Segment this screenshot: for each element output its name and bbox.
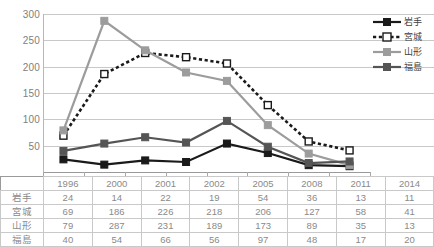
data-point-marker	[346, 158, 353, 165]
table-cell: 79	[44, 219, 93, 233]
table-column-header: 1996	[44, 177, 93, 191]
legend-label: 福島	[404, 60, 422, 74]
legend-label: 宮城	[404, 30, 422, 44]
series-lines	[43, 14, 370, 172]
data-point-marker	[223, 140, 230, 147]
table-row-label: 山形	[1, 219, 44, 233]
legend-swatch-icon	[372, 45, 402, 59]
data-point-marker	[183, 69, 190, 76]
data-point-marker	[223, 77, 230, 84]
table-row: 宮城691862262182061275841	[1, 205, 434, 219]
data-point-marker	[142, 157, 149, 164]
legend-swatch-icon	[372, 30, 402, 44]
table-column-header: 2005	[239, 177, 288, 191]
table-cell: 189	[190, 219, 239, 233]
table-cell: 54	[239, 191, 288, 205]
data-point-marker	[264, 143, 271, 150]
table-cell: 231	[141, 219, 190, 233]
table-cell: 24	[44, 191, 93, 205]
table-cell: 36	[287, 191, 336, 205]
table-cell: 173	[239, 219, 288, 233]
table-cell: 58	[336, 205, 385, 219]
legend-item-宮城[interactable]: 宮城	[372, 30, 432, 44]
y-axis-labels: 30025020015010050	[0, 0, 40, 176]
table-header-row: 19962000200120022005200820112014	[1, 177, 434, 191]
data-point-marker	[142, 47, 149, 54]
data-point-marker	[183, 139, 190, 146]
table-cell: 11	[385, 191, 434, 205]
data-point-marker	[305, 160, 312, 167]
legend-swatch-icon	[372, 60, 402, 74]
table-column-header: 2011	[336, 177, 385, 191]
chart-legend: 岩手宮城山形福島	[372, 15, 432, 73]
table-cell: 48	[287, 233, 336, 247]
table-cell: 35	[336, 219, 385, 233]
table-cell: 89	[287, 219, 336, 233]
legend-label: 山形	[404, 45, 422, 59]
y-axis-tick-label: 50	[0, 140, 40, 151]
data-point-marker	[223, 60, 230, 67]
legend-swatch-icon	[372, 15, 402, 29]
data-point-marker	[183, 54, 190, 61]
data-table: 19962000200120022005200820112014岩手241422…	[0, 176, 434, 247]
data-point-marker	[142, 134, 149, 141]
data-point-marker	[101, 71, 108, 78]
data-point-marker	[223, 117, 230, 124]
table-cell: 54	[92, 233, 141, 247]
table-cell: 69	[44, 205, 93, 219]
table-cell: 206	[239, 205, 288, 219]
table-cell: 41	[385, 205, 434, 219]
table-cell: 66	[141, 233, 190, 247]
data-point-marker	[183, 158, 190, 165]
table-column-header: 2000	[92, 177, 141, 191]
table-cell: 14	[92, 191, 141, 205]
table-cell: 287	[92, 219, 141, 233]
data-table-wrapper: 19962000200120022005200820112014岩手241422…	[0, 176, 434, 245]
table-column-header: 2001	[141, 177, 190, 191]
table-cell: 226	[141, 205, 190, 219]
data-point-marker	[60, 156, 67, 163]
table-cell: 17	[336, 233, 385, 247]
data-point-marker	[101, 17, 108, 24]
table-column-header: 2008	[287, 177, 336, 191]
data-point-marker	[101, 140, 108, 147]
y-axis-tick-label: 100	[0, 114, 40, 125]
y-axis-tick-label: 250	[0, 35, 40, 46]
data-point-marker	[305, 150, 312, 157]
table-cell: 19	[190, 191, 239, 205]
y-axis-tick-label: 150	[0, 88, 40, 99]
table-row: 山形79287231189173893513	[1, 219, 434, 233]
data-point-marker	[305, 138, 312, 145]
legend-label: 岩手	[404, 15, 422, 29]
table-cell: 13	[385, 219, 434, 233]
table-row-label: 福島	[1, 233, 44, 247]
table-cell: 13	[336, 191, 385, 205]
table-row: 岩手2414221954361311	[1, 191, 434, 205]
table-row-label: 宮城	[1, 205, 44, 219]
data-point-marker	[60, 147, 67, 154]
data-point-marker	[101, 161, 108, 168]
table-corner-cell	[1, 177, 44, 191]
legend-item-福島[interactable]: 福島	[372, 60, 432, 74]
data-point-marker	[264, 122, 271, 129]
data-point-marker	[60, 127, 67, 134]
table-cell: 40	[44, 233, 93, 247]
table-row-label: 岩手	[1, 191, 44, 205]
table-row: 福島4054665697481720	[1, 233, 434, 247]
table-column-header: 2014	[385, 177, 434, 191]
table-cell: 127	[287, 205, 336, 219]
table-column-header: 2002	[190, 177, 239, 191]
legend-item-岩手[interactable]: 岩手	[372, 15, 432, 29]
table-cell: 22	[141, 191, 190, 205]
data-point-marker	[264, 102, 271, 109]
y-axis-tick-label: 300	[0, 9, 40, 20]
data-point-marker	[346, 147, 353, 154]
table-cell: 97	[239, 233, 288, 247]
y-axis-tick-label: 200	[0, 61, 40, 72]
table-cell: 218	[190, 205, 239, 219]
table-cell: 186	[92, 205, 141, 219]
legend-item-山形[interactable]: 山形	[372, 45, 432, 59]
table-cell: 56	[190, 233, 239, 247]
line-chart: 30025020015010050 岩手宮城山形福島	[0, 0, 434, 176]
